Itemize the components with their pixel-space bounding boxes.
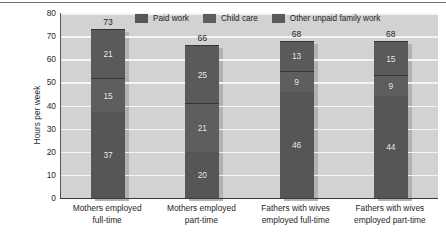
bar-stack[interactable]: 46913 [280,41,314,198]
bar-total-value: 73 [85,17,131,27]
legend-item[interactable]: Paid work [135,14,189,23]
chart-figure: Hours per week 80706050403020100 3715217… [0,0,446,246]
y-tick-label: 40 [30,101,56,110]
bar-segment-value: 13 [292,51,301,61]
y-tick-label: 50 [30,78,56,87]
bar-segment[interactable]: 15 [91,78,125,113]
x-category-label-line: Fathers with wives [335,203,445,215]
y-tick-label: 0 [30,194,56,203]
legend-item[interactable]: Child care [203,14,258,23]
x-category-label-line: employed part-time [335,215,445,227]
bar-segment-value: 44 [386,142,395,152]
bar-total-value: 68 [368,29,414,39]
top-divider [0,2,446,3]
bar-stack[interactable]: 202125 [185,45,219,198]
x-axis-category-labels: Mothers employedfull-timeMothers employe… [60,203,437,243]
x-axis-line [60,198,438,199]
y-tick-label: 10 [30,170,56,179]
bar-segment[interactable]: 9 [374,75,408,96]
bar-segment-value: 25 [198,70,207,80]
bar-segment-value: 20 [198,170,207,180]
bar-segment[interactable]: 15 [374,41,408,76]
legend-label: Paid work [153,14,189,23]
bar-segment-value: 21 [198,123,207,133]
legend-swatch [203,14,216,23]
bar-segment[interactable]: 20 [185,152,219,198]
x-category-label: Fathers with wivesemployed part-time [335,203,445,226]
bar-segment-value: 46 [292,140,301,150]
legend-swatch [272,14,285,23]
bar-segment[interactable]: 21 [91,29,125,78]
legend-swatch [135,14,148,23]
bar-segment-value: 37 [103,150,112,160]
legend-item[interactable]: Other unpaid family work [272,14,381,23]
legend-label: Child care [221,14,258,23]
y-tick-label: 60 [30,55,56,64]
bar-segment[interactable]: 46 [280,92,314,198]
y-tick-label: 30 [30,124,56,133]
bar-segment[interactable]: 25 [185,45,219,103]
bar-segment[interactable]: 9 [280,71,314,92]
bar-segment-value: 9 [389,81,394,91]
bar-segment-value: 15 [386,54,395,64]
y-axis-tick-labels: 80706050403020100 [30,13,56,198]
bar-segment[interactable]: 13 [280,41,314,71]
plot-area: 371521732021256646913684491568 [60,13,438,198]
bar-segment[interactable]: 44 [374,96,408,198]
bar-total-value: 68 [274,29,320,39]
y-tick-label: 20 [30,147,56,156]
bar-segment[interactable]: 37 [91,112,125,198]
bar-stack[interactable]: 44915 [374,41,408,198]
bar-segment-value: 21 [103,49,112,59]
bar-segment[interactable]: 21 [185,103,219,152]
bar-segment-value: 9 [294,77,299,87]
chart-legend: Paid workChild careOther unpaid family w… [135,14,394,23]
bar-stack[interactable]: 371521 [91,29,125,198]
y-tick-label: 70 [30,32,56,41]
y-tick-label: 80 [30,9,56,18]
bar-total-value: 66 [179,33,225,43]
legend-label: Other unpaid family work [290,14,381,23]
bar-segment-value: 15 [103,91,112,101]
